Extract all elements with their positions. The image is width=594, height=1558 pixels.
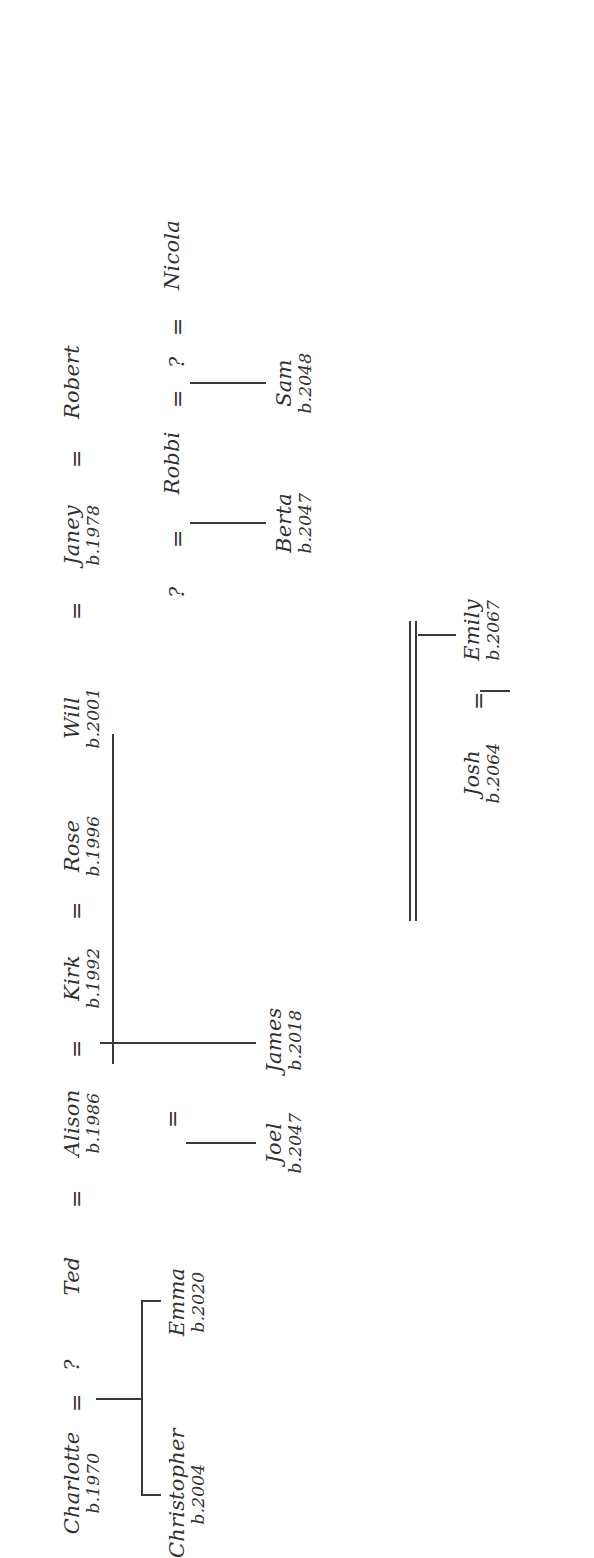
person-birth: b.1992 [84, 938, 104, 1018]
person-name: Robbi [160, 418, 184, 508]
person-birth: b.2048 [296, 338, 316, 428]
union-equals-charlotte: = [64, 1394, 89, 1412]
person-robbi[interactable]: Robbi [160, 418, 184, 508]
person-name: Berta [272, 478, 296, 568]
person-name: Sam [272, 338, 296, 428]
person-birth: b.2018 [286, 992, 306, 1088]
person-birth: b.1970 [84, 1428, 104, 1538]
person-emily[interactable]: Emily b.2067 [460, 582, 504, 678]
person-name: Charlotte [60, 1428, 84, 1538]
union-equals-unknown3-nicola: = [165, 318, 190, 336]
person-name: James [262, 992, 286, 1088]
person-name: ? [60, 1350, 84, 1380]
person-name: Joel [262, 1098, 286, 1188]
person-sam[interactable]: Sam b.2048 [272, 338, 316, 428]
descent-line-joel [186, 1142, 256, 1144]
spine-line-lower-a [409, 621, 411, 921]
person-name: Nicola [160, 210, 184, 300]
spine-line-upper [112, 734, 114, 1064]
person-unknown-2[interactable]: ? [165, 587, 189, 598]
person-birth: b.2020 [189, 1252, 209, 1352]
bracket-tick-emma [141, 1300, 161, 1302]
person-robert[interactable]: Robert [60, 334, 84, 430]
person-birth: b.2067 [484, 582, 504, 678]
person-birth: b.2001 [84, 678, 104, 758]
union-equals-janey-robert: = [64, 450, 89, 468]
person-name: Rose [60, 806, 84, 886]
person-nicola[interactable]: Nicola [160, 210, 184, 300]
person-birth: b.2064 [484, 728, 504, 818]
descent-line-james [100, 1042, 256, 1044]
union-equals-ted-alison: = [64, 1190, 89, 1208]
union-equals-alison-kirk: = [64, 1040, 89, 1058]
descent-line-emily [418, 634, 456, 636]
person-name: Kirk [60, 938, 84, 1018]
person-name: Ted [60, 1246, 84, 1306]
person-name: Will [60, 678, 84, 758]
person-berta[interactable]: Berta b.2047 [272, 478, 316, 568]
person-name: Christopher [165, 1430, 189, 1558]
person-name: Robert [60, 334, 84, 430]
family-tree-canvas: Charlotte b.1970 = ? Ted = Alison b.1986… [0, 0, 594, 1558]
person-josh[interactable]: Josh b.2064 [460, 728, 504, 818]
person-alison[interactable]: Alison b.1986 [60, 1078, 104, 1168]
person-name: Janey [60, 492, 84, 578]
union-equals-kirk-rose: = [64, 902, 89, 920]
person-christopher[interactable]: Christopher b.2004 [165, 1430, 209, 1558]
union-equals-robbi-unknown3: = [165, 390, 190, 408]
person-unknown-1[interactable]: ? [60, 1350, 84, 1380]
descent-line-berta [190, 522, 266, 524]
person-will[interactable]: Will b.2001 [60, 678, 104, 758]
union-equals-unknown2-robbi: = [165, 530, 190, 548]
person-ted[interactable]: Ted [60, 1246, 84, 1306]
person-james[interactable]: James b.2018 [262, 992, 306, 1088]
union-equals-josh-emily: = [466, 692, 491, 710]
sibling-bracket-charlotte [141, 1300, 143, 1496]
person-rose[interactable]: Rose b.1996 [60, 806, 104, 886]
spine-line-lower-b [415, 621, 417, 921]
person-birth: b.2047 [286, 1098, 306, 1188]
descent-line-sam [190, 382, 266, 384]
person-birth: b.1986 [84, 1078, 104, 1168]
person-joel[interactable]: Joel b.2047 [262, 1098, 306, 1188]
person-charlotte[interactable]: Charlotte b.1970 [60, 1428, 104, 1538]
person-birth: b.2047 [296, 478, 316, 568]
union-equals-will-janey: = [64, 602, 89, 620]
person-birth: b.1996 [84, 806, 104, 886]
person-name: Josh [460, 728, 484, 818]
person-emma[interactable]: Emma b.2020 [165, 1252, 209, 1352]
person-name: Alison [60, 1078, 84, 1168]
person-birth: b.2004 [189, 1430, 209, 1558]
descent-stem-charlotte [96, 1398, 142, 1400]
person-unknown-3[interactable]: ? [165, 357, 189, 368]
person-birth: b.1978 [84, 492, 104, 578]
descent-line-josh [480, 690, 510, 692]
bracket-tick-christopher [141, 1494, 161, 1496]
union-equals-joel-line: = [160, 1110, 185, 1128]
person-name: Emma [165, 1252, 189, 1352]
person-kirk[interactable]: Kirk b.1992 [60, 938, 104, 1018]
person-janey[interactable]: Janey b.1978 [60, 492, 104, 578]
person-name: Emily [460, 582, 484, 678]
